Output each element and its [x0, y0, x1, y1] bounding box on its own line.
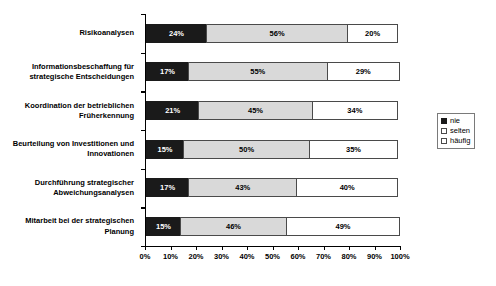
- category-axis-labels: Risikoanalysen Informationsbeschaffung f…: [0, 14, 140, 246]
- category-label: Beurteilung von Investitionen und Innova…: [0, 130, 140, 169]
- bar-segment-selten: 55%: [188, 62, 327, 81]
- stacked-bar: 17% 43% 40%: [146, 178, 400, 197]
- x-axis-tick-label: 30%: [214, 252, 229, 261]
- legend: nie selten häufig: [437, 113, 475, 149]
- stacked-bar: 15% 50% 35%: [146, 140, 400, 159]
- x-axis-tick-label: 90%: [367, 252, 382, 261]
- x-axis-tick: [273, 246, 274, 250]
- x-axis-tick-label: 10%: [163, 252, 178, 261]
- legend-item-haeufig: häufig: [441, 137, 470, 145]
- legend-label: nie: [450, 117, 460, 125]
- legend-swatch-icon: [441, 118, 447, 124]
- x-axis-tick-labels: 0%10%20%30%40%50%60%70%80%90%100%: [145, 252, 400, 264]
- bar-row: 15% 46% 49%: [146, 207, 400, 246]
- plot-area: 24% 56% 20% 17% 55% 29% 21% 45% 34%: [145, 14, 400, 246]
- bar-segment-haeufig: 35%: [309, 140, 398, 159]
- bar-row: 21% 45% 34%: [146, 91, 400, 130]
- bar-segment-selten: 56%: [206, 24, 348, 43]
- x-axis-tick-label: 70%: [316, 252, 331, 261]
- bar-row: 17% 55% 29%: [146, 53, 400, 92]
- category-label: Informationsbeschaffung für strategische…: [0, 53, 140, 92]
- x-axis-tick-label: 0%: [140, 252, 151, 261]
- x-axis-tick: [349, 246, 350, 250]
- bar-segment-nie: 24%: [146, 24, 207, 43]
- x-axis-tick-label: 80%: [341, 252, 356, 261]
- bar-row: 24% 56% 20%: [146, 14, 400, 53]
- x-axis-tick-label: 100%: [390, 252, 409, 261]
- bar-segment-haeufig: 20%: [347, 24, 398, 43]
- bar-segment-selten: 45%: [198, 101, 312, 120]
- category-label: Durchführung strategischer Abweichungsan…: [0, 169, 140, 208]
- bar-row: 15% 50% 35%: [146, 130, 400, 169]
- stacked-bar: 15% 46% 49%: [146, 217, 400, 236]
- stacked-bar: 24% 56% 20%: [146, 24, 400, 43]
- legend-item-selten: selten: [441, 127, 470, 135]
- bar-segment-haeufig: 29%: [327, 62, 401, 81]
- bar-segment-selten: 43%: [188, 178, 297, 197]
- bar-segment-nie: 15%: [146, 140, 184, 159]
- x-axis-tick: [145, 246, 146, 250]
- bar-segment-haeufig: 40%: [296, 178, 398, 197]
- x-axis-tick: [298, 246, 299, 250]
- legend-label: selten: [450, 127, 470, 135]
- legend-item-nie: nie: [441, 117, 470, 125]
- bar-segment-nie: 17%: [146, 62, 189, 81]
- legend-swatch-icon: [441, 138, 447, 144]
- bar-segment-haeufig: 49%: [286, 217, 400, 236]
- x-axis-tick-label: 40%: [239, 252, 254, 261]
- x-axis-tick: [222, 246, 223, 250]
- bar-segment-nie: 21%: [146, 101, 199, 120]
- bar-segment-selten: 50%: [183, 140, 310, 159]
- stacked-bar: 21% 45% 34%: [146, 101, 400, 120]
- x-axis-tick: [400, 246, 401, 250]
- bar-segment-haeufig: 34%: [312, 101, 398, 120]
- x-axis-tick-label: 20%: [188, 252, 203, 261]
- category-label: Mitarbeit bei der strategischen Planung: [0, 207, 140, 246]
- bar-segment-selten: 46%: [180, 217, 287, 236]
- bar-segment-nie: 15%: [146, 217, 181, 236]
- x-axis-ticks: [145, 246, 400, 251]
- category-label: Risikoanalysen: [0, 14, 140, 53]
- x-axis-tick: [247, 246, 248, 250]
- x-axis-tick: [171, 246, 172, 250]
- stacked-bar: 17% 55% 29%: [146, 62, 400, 81]
- x-axis-tick: [196, 246, 197, 250]
- x-axis-tick: [375, 246, 376, 250]
- x-axis-tick-label: 50%: [265, 252, 280, 261]
- stacked-bar-chart: Risikoanalysen Informationsbeschaffung f…: [0, 0, 496, 286]
- bar-row: 17% 43% 40%: [146, 169, 400, 208]
- bar-segment-nie: 17%: [146, 178, 189, 197]
- bar-rows: 24% 56% 20% 17% 55% 29% 21% 45% 34%: [146, 14, 400, 246]
- x-axis-tick: [324, 246, 325, 250]
- legend-label: häufig: [450, 137, 470, 145]
- category-label: Koordination der betrieblichen Früherken…: [0, 91, 140, 130]
- legend-swatch-icon: [441, 128, 447, 134]
- x-axis-tick-label: 60%: [290, 252, 305, 261]
